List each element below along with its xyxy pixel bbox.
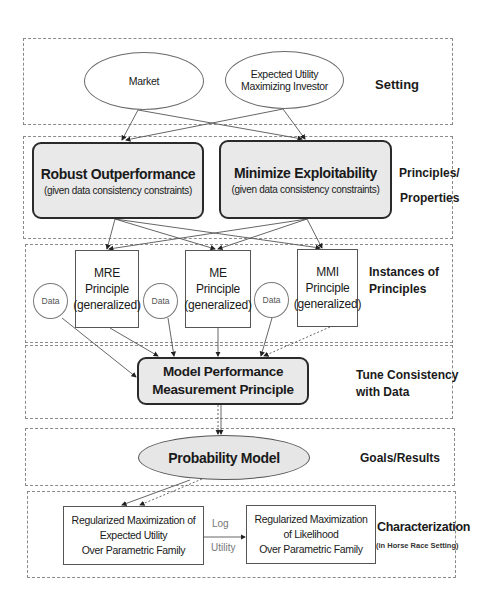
probability-model-label: Probability Model	[168, 450, 280, 466]
mmi-line3: (generalized)	[294, 296, 361, 312]
layer-label-characterization: Characterization	[377, 520, 470, 536]
layer-sublabel-characterization: (in Horse Race Setting)	[376, 541, 459, 550]
eu-line1: Regularized Maximization of	[72, 513, 196, 528]
lik-line2: of Likelihood	[283, 527, 338, 542]
mre-line1: MRE	[94, 265, 120, 281]
market-label: Market	[129, 75, 159, 87]
robust-subtitle: (given data consistency constraints)	[44, 185, 192, 196]
arrow-label-utility: Utility	[211, 542, 235, 553]
mre-line3: (generalized)	[73, 297, 140, 313]
lik-line1: Regularized Maximization	[254, 512, 367, 527]
data-label: Data	[152, 296, 170, 306]
data-label: Data	[263, 295, 281, 305]
layer-label-tune-2: with Data	[356, 385, 409, 400]
lik-line3: Over Parametric Family	[259, 542, 363, 557]
layer-label-principles-2: Properties	[400, 191, 459, 206]
data-circle-3: Data	[254, 282, 289, 318]
layer-label-principles-1: Principles/	[399, 166, 460, 181]
layer-label-instances-1: Instances of	[369, 265, 439, 280]
mmi-line2: Principle	[305, 280, 349, 296]
robust-title: Robust Outperformance	[41, 166, 196, 182]
minimize-title: Minimize Exploitability	[234, 165, 377, 181]
layer-label-instances-2: Principles	[369, 282, 426, 297]
model-performance-line1: Model Performance	[163, 363, 283, 381]
model-performance-line2: Measurement Principle	[152, 381, 294, 399]
mre-line2: Principle	[85, 281, 129, 297]
mmi-principle-box: MMI Principle (generalized)	[297, 249, 358, 327]
investor-label-line1: Expected Utility	[251, 68, 319, 80]
arrow-label-log: Log	[212, 518, 229, 529]
data-circle-2: Data	[143, 283, 178, 319]
market-ellipse: Market	[84, 52, 204, 110]
eu-line3: Over Parametric Family	[82, 543, 186, 558]
me-line1: ME	[209, 265, 227, 281]
investor-ellipse: Expected Utility Maximizing Investor	[225, 51, 344, 109]
me-line3: (generalized)	[184, 297, 251, 313]
layer-label-goals: Goals/Results	[360, 451, 440, 466]
expected-utility-box: Regularized Maximization of Expected Uti…	[63, 506, 204, 565]
mmi-line1: MMI	[316, 264, 339, 280]
data-label: Data	[42, 296, 60, 306]
layer-label-tune-1: Tune Consistency	[356, 368, 458, 383]
minimize-exploitability-box: Minimize Exploitability (given data cons…	[219, 140, 392, 219]
me-principle-box: ME Principle (generalized)	[185, 250, 251, 328]
minimize-subtitle: (given data consistency constraints)	[231, 184, 379, 195]
data-circle-1: Data	[33, 283, 68, 319]
layer-label-setting: Setting	[375, 77, 419, 93]
eu-line2: Expected Utility	[100, 528, 168, 543]
me-line2: Principle	[196, 281, 240, 297]
model-performance-box: Model Performance Measurement Principle	[137, 357, 309, 405]
likelihood-box: Regularized Maximization of Likelihood O…	[246, 505, 376, 564]
robust-outperformance-box: Robust Outperformance (given data consis…	[32, 142, 204, 219]
investor-label-line2: Maximizing Investor	[241, 80, 328, 92]
mre-principle-box: MRE Principle (generalized)	[75, 250, 139, 328]
probability-model-ellipse: Probability Model	[138, 435, 310, 480]
